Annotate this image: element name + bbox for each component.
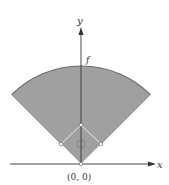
base-first bbox=[99, 142, 103, 146]
base-third bbox=[59, 142, 63, 146]
y-axis-label: y bbox=[76, 15, 83, 26]
x-axis-label: x bbox=[157, 159, 163, 170]
diagram-canvas: y x f (0, 0) bbox=[0, 0, 169, 185]
y-axis-arrow-icon bbox=[79, 27, 84, 35]
origin-label: (0, 0) bbox=[67, 172, 91, 182]
x-axis-arrow-icon bbox=[148, 162, 156, 167]
curve-f-label: f bbox=[85, 55, 91, 65]
base-home bbox=[79, 162, 83, 166]
base-second bbox=[79, 123, 83, 127]
